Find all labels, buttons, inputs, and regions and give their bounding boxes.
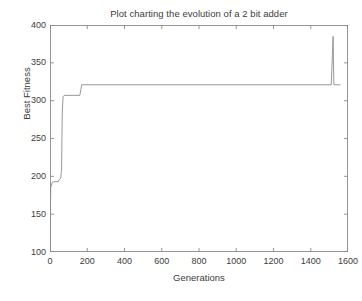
y-tick-label: 350 <box>16 58 46 67</box>
chart-title: Plot charting the evolution of a 2 bit a… <box>50 8 348 20</box>
y-tick-label: 200 <box>16 172 46 181</box>
x-tick-label: 0 <box>30 257 70 266</box>
x-tick-label: 1400 <box>291 257 331 266</box>
x-tick-label: 1600 <box>328 257 362 266</box>
plot-background <box>50 25 348 252</box>
y-tick-label: 100 <box>16 248 46 257</box>
x-tick-label: 1000 <box>216 257 256 266</box>
x-tick-label: 600 <box>142 257 182 266</box>
y-tick-label: 250 <box>16 134 46 143</box>
y-tick-label: 300 <box>16 96 46 105</box>
y-tick-label: 150 <box>16 210 46 219</box>
plot-svg <box>50 25 348 252</box>
figure-canvas: Plot charting the evolution of a 2 bit a… <box>0 0 362 301</box>
y-tick-label: 400 <box>16 21 46 30</box>
x-tick-label: 400 <box>105 257 145 266</box>
x-tick-label: 800 <box>179 257 219 266</box>
plot-area <box>50 25 348 252</box>
x-tick-label: 1200 <box>254 257 294 266</box>
x-tick-label: 200 <box>67 257 107 266</box>
x-axis-label: Generations <box>50 272 348 283</box>
